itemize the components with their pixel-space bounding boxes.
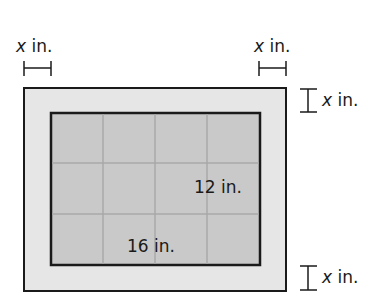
dimension-bracket-top-left — [24, 61, 51, 76]
variable-x: x — [16, 36, 26, 56]
dimension-bracket-top-right — [259, 61, 286, 76]
frame-diagram — [0, 0, 391, 307]
unit-text: in. — [26, 36, 52, 56]
variable-x: x — [322, 90, 332, 110]
label-top-left: x in. — [16, 38, 52, 55]
label-inner-height: 12 in. — [194, 179, 242, 196]
unit-text: in. — [332, 267, 358, 287]
dimension-bracket-right-bottom — [300, 266, 317, 290]
label-right-bottom: x in. — [322, 269, 358, 286]
label-inner-width: 16 in. — [127, 238, 175, 255]
variable-x: x — [322, 267, 332, 287]
label-top-right: x in. — [254, 38, 290, 55]
unit-text: in. — [264, 36, 290, 56]
dimension-bracket-right-top — [300, 89, 317, 112]
label-right-top: x in. — [322, 92, 358, 109]
unit-text: in. — [332, 90, 358, 110]
variable-x: x — [254, 36, 264, 56]
